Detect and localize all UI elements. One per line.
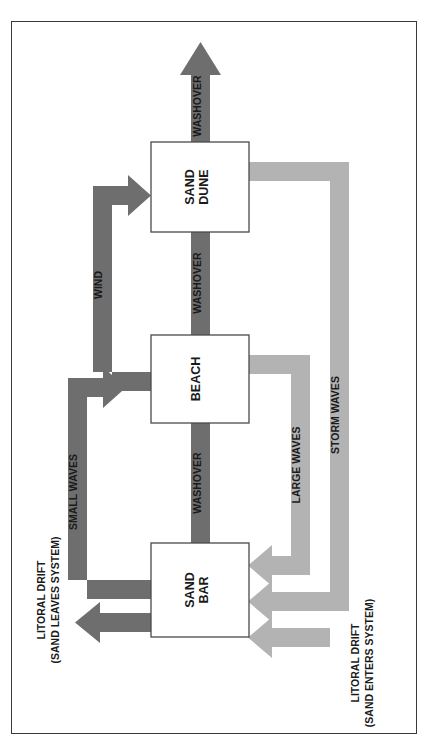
- label-washover-out: WASHOVER: [191, 75, 203, 137]
- label-litoral-drift-out-line1: LITORAL DRIFT: [35, 560, 47, 640]
- label-washover-beach-bar: WASHOVER: [191, 452, 203, 514]
- label-washover-dune-beach: WASHOVER: [191, 252, 203, 314]
- node-sand-dune[interactable]: SAND DUNE: [151, 142, 249, 232]
- node-sand-bar[interactable]: SAND BAR: [151, 543, 249, 637]
- node-sand-bar-label-line1: SAND: [183, 572, 197, 607]
- node-beach-label-line1: BEACH: [189, 357, 203, 401]
- label-litoral-drift-in-line2: (SAND ENTERS SYSTEM): [363, 599, 375, 727]
- flow-litoral-drift-in: [248, 617, 330, 658]
- node-sand-dune-label-line1: SAND: [183, 169, 197, 204]
- node-sand-dune-label-line2: DUNE: [197, 169, 211, 204]
- label-storm-waves: STORM WAVES: [329, 376, 341, 454]
- node-sand-bar-label-line2: BAR: [197, 576, 211, 603]
- label-litoral-drift-out-line2: (SAND LEAVES SYSTEM): [49, 537, 61, 664]
- flow-litoral-drift-out: [75, 602, 152, 643]
- label-large-waves: LARGE WAVES: [290, 427, 302, 504]
- label-litoral-drift-in-line1: LITORAL DRIFT: [349, 623, 361, 703]
- label-small-waves: SMALL WAVES: [67, 454, 79, 530]
- node-beach[interactable]: BEACH: [151, 335, 249, 423]
- sand-budget-diagram: SAND DUNE BEACH SAND BAR WASHOVER WASHOV…: [0, 0, 431, 755]
- label-wind: WIND: [92, 271, 104, 299]
- flow-small-waves: [68, 367, 152, 599]
